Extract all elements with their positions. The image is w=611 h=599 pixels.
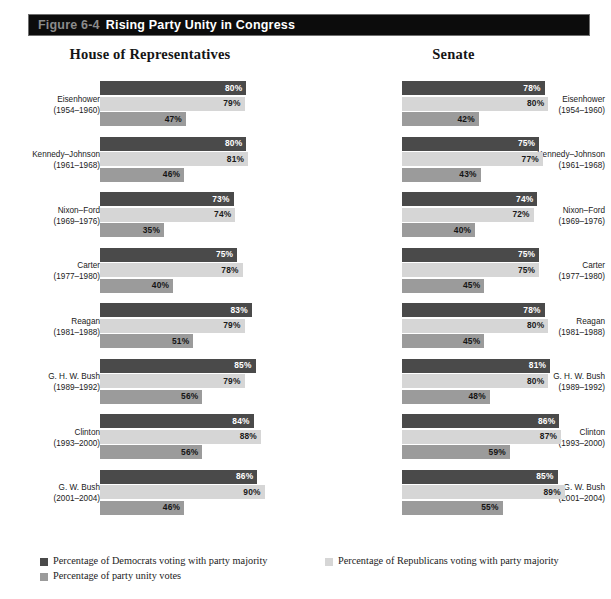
legend-swatch-democrats-icon (40, 558, 48, 566)
bar-democrats: 86% (100, 470, 257, 484)
bar-value-label: 72% (512, 210, 533, 218)
bar-group: G. W. Bush(2001–2004)86%90%46% (18, 466, 308, 522)
bar-group-label: Reagan(1981–1988) (18, 316, 100, 338)
chart-legend: Percentage of Democrats voting with part… (40, 555, 580, 585)
bar-democrats: 81% (402, 359, 550, 373)
bar-group: Reagan(1981–1988)78%80%45% (320, 299, 605, 355)
bar-value-label: 75% (518, 250, 539, 258)
bar-value-label: 45% (463, 337, 484, 345)
bar-party-unity: 43% (402, 168, 481, 182)
bar-group-label-years: (1977–1980) (18, 271, 100, 282)
bar-value-label: 75% (518, 266, 539, 274)
bar-group: Reagan(1981–1988)83%79%51% (18, 299, 308, 355)
bar-democrats: 78% (402, 81, 545, 95)
bar-democrats: 83% (100, 303, 252, 317)
bar-republicans: 80% (402, 97, 548, 111)
bar-value-label: 46% (163, 503, 184, 511)
bar-stack: 73%74%35% (100, 192, 278, 239)
bar-group: Clinton(1993–2000)84%88%56% (18, 410, 308, 466)
bar-democrats: 85% (402, 470, 558, 484)
bar-group: G. H. W. Bush(1989–1992)85%79%56% (18, 355, 308, 411)
bar-value-label: 87% (540, 432, 561, 440)
bar-group: Carter(1977–1980)75%78%40% (18, 244, 308, 300)
bar-groups-senate: Eisenhower(1954–1960)78%80%42%Kennedy–Jo… (320, 77, 605, 521)
bar-group-label: Carter(1977–1980) (18, 260, 100, 282)
bar-party-unity: 47% (100, 112, 186, 126)
bar-value-label: 77% (522, 155, 543, 163)
bar-group-label-years: (1969–1976) (18, 216, 100, 227)
bar-value-label: 80% (527, 377, 548, 385)
bar-republicans: 81% (100, 152, 248, 166)
bar-group: Eisenhower(1954–1960)78%80%42% (320, 77, 605, 133)
bar-republicans: 79% (100, 97, 245, 111)
bar-group-label-name: Eisenhower (18, 94, 100, 105)
bar-group: Nixon–Ford(1969–1976)73%74%35% (18, 188, 308, 244)
bar-group: Nixon–Ford(1969–1976)74%72%40% (320, 188, 605, 244)
bar-democrats: 80% (100, 81, 246, 95)
bar-value-label: 85% (536, 472, 557, 480)
bar-groups-house: Eisenhower(1954–1960)80%79%47%Kennedy–Jo… (18, 77, 308, 521)
bar-party-unity: 35% (100, 223, 164, 237)
bar-stack: 75%77%43% (402, 137, 580, 184)
bar-group-label: Clinton(1993–2000) (18, 427, 100, 449)
bar-republicans: 89% (402, 485, 565, 499)
bar-value-label: 45% (463, 281, 484, 289)
bar-republicans: 74% (100, 208, 235, 222)
bar-party-unity: 55% (402, 501, 503, 515)
bar-value-label: 56% (181, 392, 202, 400)
bar-value-label: 85% (234, 361, 255, 369)
bar-group: Kennedy–Johnson(1961–1968)75%77%43% (320, 133, 605, 189)
bar-group-label-years: (1981–1988) (18, 327, 100, 338)
bar-stack: 86%90%46% (100, 470, 278, 517)
bar-value-label: 81% (227, 155, 248, 163)
bar-republicans: 87% (402, 430, 561, 444)
bar-group: Eisenhower(1954–1960)80%79%47% (18, 77, 308, 133)
bar-group-label: G. H. W. Bush(1989–1992) (18, 371, 100, 393)
bar-value-label: 43% (459, 170, 480, 178)
bar-value-label: 51% (172, 337, 193, 345)
legend-item-party-unity: Percentage of party unity votes (40, 570, 325, 582)
bar-democrats: 73% (100, 192, 234, 206)
bar-group-label-years: (1954–1960) (18, 105, 100, 116)
legend-item-republicans: Percentage of Republicans voting with pa… (325, 555, 559, 567)
bar-group: Kennedy–Johnson(1961–1968)80%81%46% (18, 133, 308, 189)
bar-democrats: 84% (100, 414, 254, 428)
bar-party-unity: 59% (402, 445, 510, 459)
legend-row-2: Percentage of party unity votes (40, 570, 580, 582)
bar-value-label: 80% (225, 139, 246, 147)
bar-value-label: 74% (516, 195, 537, 203)
bar-party-unity: 46% (100, 168, 184, 182)
bar-group-label: Kennedy–Johnson(1961–1968) (18, 149, 100, 171)
bar-value-label: 86% (236, 472, 257, 480)
bar-value-label: 90% (243, 488, 264, 496)
bar-value-label: 88% (240, 432, 261, 440)
bar-group-label: Nixon–Ford(1969–1976) (18, 205, 100, 227)
bar-group-label-name: Reagan (18, 316, 100, 327)
bar-value-label: 79% (223, 377, 244, 385)
bar-republicans: 88% (100, 430, 261, 444)
panel-title-senate: Senate (320, 46, 605, 63)
bar-value-label: 75% (216, 250, 237, 258)
bar-democrats: 78% (402, 303, 545, 317)
bar-value-label: 75% (518, 139, 539, 147)
legend-label-republicans: Percentage of Republicans voting with pa… (338, 555, 559, 567)
bar-democrats: 86% (402, 414, 559, 428)
bar-value-label: 78% (221, 266, 242, 274)
bar-party-unity: 42% (402, 112, 479, 126)
legend-label-party-unity: Percentage of party unity votes (53, 570, 181, 582)
bar-value-label: 56% (181, 448, 202, 456)
bar-stack: 85%79%56% (100, 359, 278, 406)
bar-republicans: 79% (100, 374, 245, 388)
bar-democrats: 74% (402, 192, 537, 206)
bar-value-label: 78% (523, 306, 544, 314)
bar-group-label-name: Nixon–Ford (18, 205, 100, 216)
bar-value-label: 79% (223, 321, 244, 329)
bar-value-label: 48% (468, 392, 489, 400)
panel-title-house: House of Representatives (18, 46, 308, 63)
figure-number: Figure 6-4 (38, 18, 100, 32)
bar-democrats: 75% (402, 248, 539, 262)
bar-group: Carter(1977–1980)75%75%45% (320, 244, 605, 300)
bar-party-unity: 40% (402, 223, 475, 237)
bar-value-label: 42% (457, 115, 478, 123)
bar-stack: 78%80%42% (402, 81, 580, 128)
